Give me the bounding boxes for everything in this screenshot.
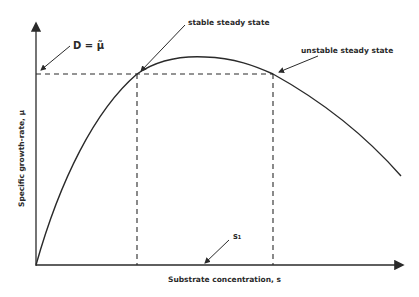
- dilution-arrow: [41, 46, 70, 70]
- x-axis-label: Substrate concentration, s: [168, 275, 281, 284]
- growth-curve: [36, 57, 401, 265]
- stable-label: stable steady state: [188, 18, 270, 27]
- y-axis-label: Specific growth-rate, μ: [17, 109, 26, 207]
- unstable-label: unstable steady state: [301, 46, 393, 55]
- dilution-label: D = μ̃: [73, 40, 105, 51]
- growth-rate-diagram: D = μ̃ stable steady state unstable stea…: [0, 0, 419, 297]
- s1-arrow: [205, 240, 229, 263]
- stable-arrow: [141, 25, 185, 71]
- unstable-arrow: [279, 56, 318, 72]
- s1-label: s₁: [233, 232, 242, 241]
